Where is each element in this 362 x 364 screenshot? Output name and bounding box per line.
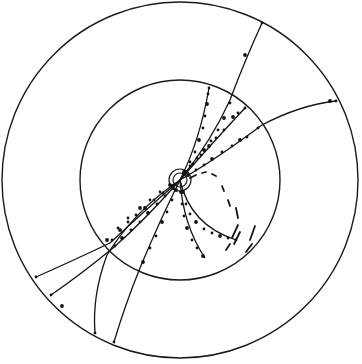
hit-marker [231,115,235,119]
curl-segment [228,200,230,206]
hit-marker [238,138,242,142]
hit-marker [244,107,247,110]
hit-marker [237,112,240,115]
hit-marker [141,260,145,264]
hit-marker [111,239,114,242]
curling-track-segments [190,172,255,252]
hit-marker [202,127,205,130]
hit-marker [113,341,116,344]
hit-marker [149,247,152,250]
curl-segment [222,186,224,191]
hit-marker [227,237,230,240]
hit-marker [155,235,158,238]
hit-marker [105,238,109,242]
hit-marker [185,203,188,206]
hit-marker [182,170,186,174]
hit-marker [221,151,224,154]
hit-marker [231,145,234,148]
hit-marker [215,137,218,140]
hit-marker [195,169,198,172]
hit-marker [146,211,150,215]
hit-marker [162,192,165,195]
hit-marker [135,214,138,217]
hit-marker [192,163,195,166]
hit-marker [223,129,226,132]
hit-marker [210,157,214,161]
hit-marker [261,22,264,25]
detector-canvas [0,0,362,364]
hit-marker [203,164,206,167]
hit-marker [243,53,247,57]
hit-marker [204,115,207,118]
hit-marker [229,102,232,105]
curl-segment [250,226,255,240]
hit-marker [246,136,249,139]
hit-marker [60,304,64,308]
hit-marker [208,87,211,90]
hit-marker [207,93,210,96]
hit-marker [203,228,206,231]
hit-marker [139,221,142,224]
hit-marker [166,211,169,214]
curl-segment [212,174,216,176]
hit-marker [211,232,214,235]
hit-marker [181,203,184,206]
hit-marker [335,100,338,103]
hit-marker [138,206,142,210]
hit-marker [189,213,192,216]
hit-marker [50,294,53,297]
hit-marker [257,127,260,130]
hit-marker [217,129,220,132]
hit-marker [159,191,162,194]
hit-marker [153,199,156,202]
hit-marker [156,203,159,206]
hit-marker [196,247,199,250]
hit-marker [94,332,97,335]
track-t8 [114,180,180,342]
curl-segment [202,172,206,173]
hit-marker [201,254,205,258]
hit-marker [222,116,226,120]
hit-marker [210,140,213,143]
hit-marker [189,161,192,164]
hit-marker [120,236,124,240]
hit-marker [127,221,130,224]
hit-marker [183,215,186,218]
hit-marker [194,151,197,154]
track-t1 [180,23,262,180]
hit-marker [117,227,120,230]
hit-marker [196,157,199,160]
hit-marker [328,99,332,103]
hit-marker [189,165,192,168]
event-display [0,0,362,364]
hit-marker [200,154,203,157]
hit-marker [191,239,194,242]
hit-marker [143,206,147,210]
hit-marker [171,199,174,202]
hit-marker [218,234,222,238]
hit-marker [160,220,164,224]
hit-marker [35,276,38,279]
hit-marker [185,226,189,230]
hit-marker [130,229,133,232]
curl-segment [226,244,230,250]
hit-marker [181,190,185,194]
hit-marker [149,199,152,202]
hit-marker [164,195,167,198]
track-t7 [95,180,181,333]
hit-marker [127,217,130,220]
hit-marker [202,148,206,152]
hit-marker [205,102,209,106]
hit-marker [207,144,211,148]
hit-marker [114,245,117,248]
hit-marker [197,138,201,142]
track-t5 [36,180,180,277]
track-t10 [180,180,236,240]
hit-marker [174,188,178,192]
hit-marker [194,220,198,224]
hit-marker [168,183,172,187]
curl-segment [236,208,238,218]
